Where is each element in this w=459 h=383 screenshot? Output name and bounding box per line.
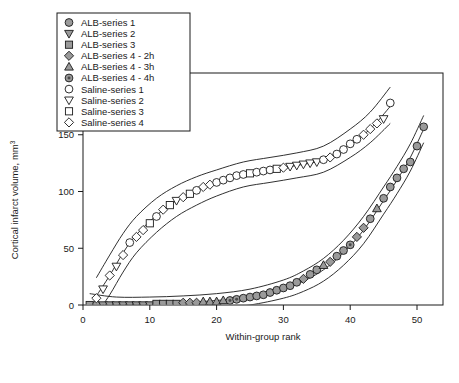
data-point-Saline [340,146,348,154]
data-point-ALB [406,158,414,166]
x-tick-label: 0 [80,314,85,325]
marker-inner-dot [235,298,238,301]
figure-container: 01020304050Within-group rank050100150200… [0,0,459,383]
chart-svg: 01020304050Within-group rank050100150200… [0,0,459,383]
legend-item-label: ALB-series 2 [81,28,135,39]
data-point-ALB [373,204,382,212]
data-point-ALB [393,174,401,182]
y-tick-label: 50 [63,243,74,254]
data-point-Saline [146,220,153,227]
data-point-ALB [366,215,374,223]
data-point-ALB [420,123,428,131]
legend-item-label: ALB-series 4 - 4h [81,72,154,83]
data-point-Saline [126,239,134,247]
x-axis-title: Within-group rank [226,331,301,342]
data-point-Saline [105,271,114,280]
x-tick-label: 30 [278,314,289,325]
y-axis-title: Cortical infarct volume, mm3 [9,140,21,259]
legend-marker-circle [65,85,73,93]
legend-marker-square [65,108,72,115]
legend-item-label: Saline-series 4 [81,117,144,128]
legend-item-label: ALB-series 4 - 3h [81,61,154,72]
data-point-ALB [160,300,167,307]
legend-marker-square [65,41,72,48]
data-point-ALB [153,300,160,307]
y-tick-label: 100 [58,186,74,197]
data-point-Saline [273,165,280,172]
data-point-ALB [400,165,408,173]
legend-marker-circle [65,19,73,27]
data-point-ALB [352,232,361,241]
x-tick-label: 10 [145,314,156,325]
legend-item-label: ALB-series 1 [81,17,135,28]
y-tick-label: 0 [69,300,74,311]
marker-inner-dot [228,299,231,302]
fit-curve-Saline-fit [96,106,390,296]
marker-inner-dot [68,77,71,80]
legend-item-label: Saline-series 1 [81,84,144,95]
x-tick-label: 40 [345,314,356,325]
data-point-ALB [413,142,421,150]
data-point-ALB [173,300,180,307]
legend-item-label: ALB-series 3 [81,39,135,50]
legend-item-label: Saline-series 3 [81,106,144,117]
x-tick-label: 50 [412,314,423,325]
x-tick-label: 20 [211,314,222,325]
data-point-ALB [380,194,388,202]
legend-item-label: ALB-series 4 - 2h [81,50,154,61]
data-point-ALB [333,252,341,260]
data-point-ALB [166,300,173,307]
data-point-Saline [166,202,173,209]
data-point-ALB [386,183,394,191]
fit-curve-ALB-upper-band [90,115,424,297]
marker-inner-dot [349,243,352,246]
data-point-ALB [340,247,348,255]
data-point-Saline [353,135,361,143]
data-point-ALB [359,223,368,232]
legend-item-label: Saline-series 2 [81,95,144,106]
data-point-Saline [153,213,161,221]
legend: ALB-series 1ALB-series 2ALB-series 3ALB-… [57,13,190,131]
data-point-Saline [372,119,381,128]
data-point-Saline [386,99,394,107]
